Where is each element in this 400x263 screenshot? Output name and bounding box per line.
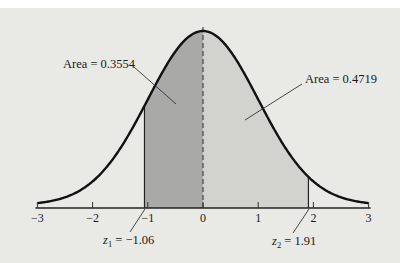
z1-value: = −1.06 [112, 233, 154, 247]
x-tick-label: 1 [255, 211, 261, 225]
z2-value: = 1.91 [281, 234, 316, 248]
area-left-label: Area = 0.3554 [63, 57, 136, 71]
normal-curve-chart: −3−2−10123 Area = 0.3554 Area = 0.4719 z… [0, 0, 400, 263]
x-tick-label: −3 [31, 211, 44, 225]
area-right-label: Area = 0.4719 [305, 72, 377, 86]
z1-label: z1 = −1.06 [102, 233, 154, 249]
x-tick-label: 2 [310, 211, 316, 225]
x-axis-tick-labels: −3−2−10123 [31, 211, 372, 225]
x-tick-label: −1 [141, 211, 154, 225]
shaded-area-right [203, 31, 308, 208]
figure: −3−2−10123 Area = 0.3554 Area = 0.4719 z… [0, 0, 400, 263]
z2-label: z2 = 1.91 [271, 234, 316, 250]
leader-line-z2 [293, 209, 309, 233]
x-tick-label: −2 [86, 211, 99, 225]
x-tick-label: 3 [366, 211, 372, 225]
x-tick-label: 0 [200, 211, 206, 225]
x-axis-ticks [37, 202, 368, 208]
shaded-area-left [144, 31, 203, 208]
